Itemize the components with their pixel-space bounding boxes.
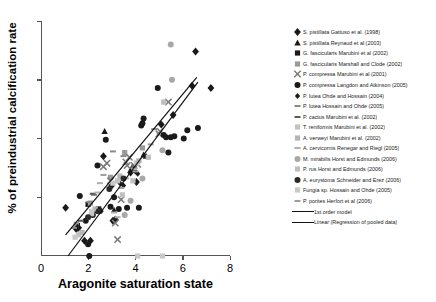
legend-marker-icon xyxy=(292,154,303,164)
data-point xyxy=(146,155,151,160)
data-point xyxy=(62,204,69,212)
legend-item[interactable]: A. cervicornis Renegar and Riegl (2005) xyxy=(292,143,436,154)
legend-marker-glyph xyxy=(295,188,300,193)
legend-line-swatch xyxy=(292,207,314,217)
legend-item-label: M. mirabilis Horst and Edmunds (2006) xyxy=(303,154,397,164)
legend-item[interactable]: A. eurystoma Schneider and Erez (2006) xyxy=(292,175,436,186)
legend-item-label: P. compressa Langdon and Atkinson (2005) xyxy=(303,80,408,90)
legend-item[interactable]: Fungia sp. Hossain and Ohde (2005) xyxy=(292,185,436,196)
legend-marker-icon xyxy=(292,80,303,90)
legend-marker-glyph xyxy=(295,61,300,66)
legend-item-label: P. lutea Hossain and Ohde (2005) xyxy=(303,101,384,111)
data-point xyxy=(86,201,92,203)
legend-item[interactable]: P. lutea Ohde and Hossain (2004) xyxy=(292,90,436,101)
data-point xyxy=(85,241,91,247)
legend-item[interactable]: P. porites Herfort et al (2006) xyxy=(292,196,436,207)
legend-marker-glyph xyxy=(295,177,301,183)
legend-item[interactable]: S. pistillata Reynaud et al (2003) xyxy=(292,38,436,49)
data-point xyxy=(108,204,114,210)
data-point xyxy=(128,198,134,204)
data-point xyxy=(168,42,174,48)
data-point xyxy=(115,216,121,218)
data-point xyxy=(165,150,171,156)
data-point xyxy=(89,209,94,214)
series-group xyxy=(122,42,175,218)
legend-marker-icon xyxy=(292,122,303,132)
data-point xyxy=(136,205,142,211)
legend-marker-icon xyxy=(292,69,303,79)
x-tick-label: 4 xyxy=(121,263,151,274)
legend-marker-glyph xyxy=(295,200,301,202)
legend-marker-glyph xyxy=(294,71,300,77)
x-tick-label: 8 xyxy=(215,263,245,274)
data-point xyxy=(72,235,77,240)
legend-item[interactable]: P. compressa Langdon and Atkinson (2005) xyxy=(292,80,436,91)
calcification-scatter-figure: % of preindustrial calcification rate 05… xyxy=(0,0,436,302)
data-point xyxy=(171,133,177,139)
data-point xyxy=(208,84,215,92)
legend-item[interactable]: A. verweyi Marubini et al. (2002) xyxy=(292,132,436,143)
data-point xyxy=(103,137,109,143)
data-point xyxy=(124,205,130,211)
legend-item[interactable]: P. cactus Marubini et al. (2002) xyxy=(292,111,436,122)
legend-marker-glyph xyxy=(295,125,300,130)
legend-marker-glyph xyxy=(295,147,301,149)
data-points-layer xyxy=(42,21,231,256)
x-tick-mark xyxy=(182,256,183,260)
data-point xyxy=(141,116,147,122)
data-point xyxy=(110,150,116,152)
legend-marker-icon xyxy=(292,164,303,174)
legend-item-label: S. pistillata Gattuso et al. (1998) xyxy=(303,27,380,37)
legend-item-label: P. porites Herfort et al (2006) xyxy=(303,196,372,206)
legend-item-label: T. reniformis Marubini et al. (2002) xyxy=(303,122,385,132)
legend-item[interactable]: S. pistillata Gattuso et al. (1998) xyxy=(292,27,436,38)
data-point xyxy=(122,212,128,218)
data-point xyxy=(159,147,165,153)
x-tick-label: 6 xyxy=(168,263,198,274)
legend-item-label: Fungia sp. Hossain and Ohde (2005) xyxy=(303,185,392,195)
data-point xyxy=(85,214,91,220)
legend-item[interactable]: G. fascicularis Marubini et al (2002) xyxy=(292,48,436,59)
legend-item-label: A. eurystoma Schneider and Erez (2006) xyxy=(303,175,401,185)
legend-line-item[interactable]: Linear (Regression of pooled data) xyxy=(292,217,436,228)
legend-item-label: G. fascicularis Marshall and Clode (2002… xyxy=(303,59,402,69)
legend-marker-glyph xyxy=(295,105,301,107)
legend-item[interactable]: G. fascicularis Marshall and Clode (2002… xyxy=(292,59,436,70)
data-point xyxy=(106,186,112,192)
data-point xyxy=(86,253,92,259)
data-point xyxy=(160,253,165,258)
x-tick-mark xyxy=(230,256,231,260)
data-point xyxy=(155,85,161,91)
legend-item-label: G. fascicularis Marubini et al (2002) xyxy=(303,48,388,58)
data-point xyxy=(181,136,187,142)
legend-marker-icon xyxy=(292,133,303,143)
legend-item[interactable]: M. mirabilis Horst and Edmunds (2006) xyxy=(292,154,436,165)
trend-line xyxy=(66,77,197,234)
data-point xyxy=(115,178,120,183)
data-point xyxy=(97,182,103,184)
data-point xyxy=(184,127,190,133)
legend-line-item[interactable]: 1st order model xyxy=(292,206,436,217)
series-group xyxy=(77,85,201,259)
data-point xyxy=(111,212,117,214)
legend-item[interactable]: P. lutea Hossain and Ohde (2005) xyxy=(292,101,436,112)
data-point xyxy=(192,48,199,56)
legend-marker-glyph xyxy=(295,135,300,140)
legend-line-label: 1st order model xyxy=(314,207,352,217)
legend-item-label: P. compressa Marubini et al (2001) xyxy=(303,69,387,79)
legend-marker-icon xyxy=(292,27,303,37)
data-point xyxy=(100,174,106,176)
legend-item[interactable]: T. reniformis Marubini et al. (2002) xyxy=(292,122,436,133)
legend-item[interactable]: P. compressa Marubini et al (2001) xyxy=(292,69,436,80)
legend-item[interactable]: P. rus Horst and Edmunds (2006) xyxy=(292,164,436,175)
data-point xyxy=(140,145,145,150)
legend-item-label: A. cervicornis Renegar and Riegl (2005) xyxy=(303,143,399,153)
legend-marker-icon xyxy=(292,101,303,111)
legend-marker-icon xyxy=(292,38,303,48)
legend-marker-icon xyxy=(292,196,303,206)
legend-item-label: S. pistillata Reynaud et al (2003) xyxy=(303,38,381,48)
legend-item-label: P. cactus Marubini et al. (2002) xyxy=(303,112,377,122)
legend-item-label: P. lutea Ohde and Hossain (2004) xyxy=(303,91,384,101)
plot-panel: % of preindustrial calcification rate 05… xyxy=(0,0,244,302)
plot-area xyxy=(41,21,230,256)
